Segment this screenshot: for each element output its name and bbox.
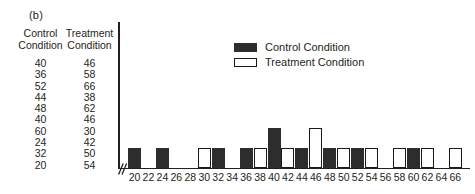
table-row: 4046 bbox=[16, 58, 114, 69]
bar-treatment-54 bbox=[365, 148, 378, 168]
table-row: 4862 bbox=[16, 103, 114, 114]
legend-item-control: Control Condition bbox=[234, 41, 364, 53]
bar-treatment-42 bbox=[281, 148, 294, 168]
x-tick-label-66: 66 bbox=[447, 171, 463, 183]
data-table: Control Condition Treatment Condition 40… bbox=[16, 28, 114, 171]
table-row: 3658 bbox=[16, 69, 114, 80]
legend-swatch-control-icon bbox=[234, 43, 257, 52]
bar-treatment-66 bbox=[449, 148, 462, 168]
cell-control-value: 20 bbox=[16, 160, 65, 171]
table-header-row: Control Condition Treatment Condition bbox=[16, 28, 114, 51]
column-header-treatment-line1: Treatment bbox=[65, 28, 114, 40]
chart-legend: Control Condition Treatment Condition bbox=[234, 41, 364, 71]
bar-control-40 bbox=[268, 128, 281, 168]
table-row: 5266 bbox=[16, 81, 114, 92]
bar-control-20 bbox=[128, 148, 141, 168]
cell-treatment-value: 54 bbox=[65, 160, 114, 171]
cell-treatment-value: 58 bbox=[65, 69, 114, 80]
bar-control-48 bbox=[323, 148, 336, 168]
y-axis-line bbox=[118, 22, 120, 168]
table-row: 4438 bbox=[16, 92, 114, 103]
legend-item-treatment: Treatment Condition bbox=[234, 56, 364, 68]
bar-treatment-62 bbox=[421, 148, 434, 168]
bar-treatment-50 bbox=[337, 148, 350, 168]
x-axis-tick-labels: 2022242628303234363840424446485052545658… bbox=[128, 171, 470, 185]
column-header-treatment-line2: Condition bbox=[65, 40, 114, 52]
bar-control-44 bbox=[295, 148, 308, 168]
table-body: 4046365852664438486240466030244232502054 bbox=[16, 58, 114, 171]
legend-label-control: Control Condition bbox=[265, 42, 350, 53]
cell-treatment-value: 50 bbox=[65, 148, 114, 159]
table-row: 2442 bbox=[16, 137, 114, 148]
legend-label-treatment: Treatment Condition bbox=[265, 57, 364, 68]
bar-control-60 bbox=[407, 148, 420, 168]
column-header-treatment: Treatment Condition bbox=[65, 28, 114, 51]
bar-control-24 bbox=[156, 148, 169, 168]
cell-control-value: 36 bbox=[16, 69, 65, 80]
table-row: 3250 bbox=[16, 148, 114, 159]
column-header-control-line1: Control bbox=[16, 28, 65, 40]
bar-treatment-58 bbox=[393, 148, 406, 168]
legend-swatch-treatment-icon bbox=[234, 58, 257, 67]
panel-label: (b) bbox=[29, 9, 43, 21]
cell-control-value: 32 bbox=[16, 148, 65, 159]
table-row: 4046 bbox=[16, 114, 114, 125]
table-row: 6030 bbox=[16, 126, 114, 137]
column-header-control-line2: Condition bbox=[16, 40, 65, 52]
column-header-control: Control Condition bbox=[16, 28, 65, 51]
table-row: 2054 bbox=[16, 160, 114, 171]
bar-treatment-38 bbox=[254, 148, 267, 168]
bar-treatment-46 bbox=[309, 128, 322, 168]
bar-control-52 bbox=[351, 148, 364, 168]
bar-control-32 bbox=[212, 148, 225, 168]
bar-control-36 bbox=[240, 148, 253, 168]
bar-treatment-30 bbox=[198, 148, 211, 168]
